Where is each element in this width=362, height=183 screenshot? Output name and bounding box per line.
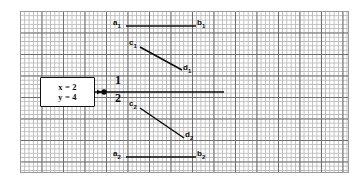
value-box-line-y: y = 4 bbox=[58, 93, 77, 102]
label-b1: b1 bbox=[197, 19, 205, 29]
branch-number-2: 2 bbox=[115, 92, 121, 104]
label-d1: d1 bbox=[183, 64, 191, 74]
diagram-figure: x = 2 y = 4 1 2 a1 b1 c1 d1 c2 d2 a2 b2 bbox=[0, 0, 362, 183]
label-c1: c1 bbox=[129, 39, 137, 49]
value-box-line-x: x = 2 bbox=[58, 83, 77, 92]
label-a2: a2 bbox=[113, 150, 121, 160]
label-c2: c2 bbox=[129, 100, 137, 110]
segment-c2-d2 bbox=[140, 108, 184, 138]
label-a1: a1 bbox=[113, 19, 121, 29]
value-box: x = 2 y = 4 bbox=[40, 77, 95, 107]
junction-node-dot bbox=[101, 89, 106, 94]
branch-number-1: 1 bbox=[115, 74, 121, 86]
segment-c1-d1 bbox=[140, 47, 182, 70]
label-b2: b2 bbox=[197, 150, 205, 160]
label-d2: d2 bbox=[185, 131, 193, 141]
